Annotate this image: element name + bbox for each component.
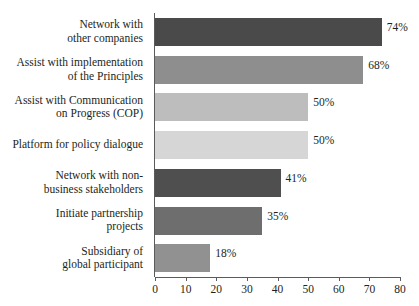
- x-axis-tick-label: 60: [333, 284, 345, 296]
- bar: [155, 18, 382, 46]
- category-label: Initiate partnershipprojects: [0, 207, 149, 234]
- category-label-line: of the Principles: [0, 70, 143, 84]
- category-label: Network with non-business stakeholders: [0, 169, 149, 196]
- bar-value-label: 41%: [286, 173, 307, 185]
- bar-row: 68%: [155, 51, 400, 89]
- x-axis-tick: [400, 277, 401, 281]
- bar-row: 41%: [155, 164, 400, 202]
- bar: [155, 131, 308, 159]
- x-axis-tick: [186, 277, 187, 281]
- bar-value-label: 50%: [313, 135, 334, 147]
- category-label-line: Subsidiary of: [0, 245, 143, 259]
- category-label-line: Initiate partnership: [0, 207, 143, 221]
- category-label-line: Assist with Communication: [0, 94, 143, 108]
- x-axis-tick-label: 20: [211, 284, 223, 296]
- x-axis-tick: [278, 277, 279, 281]
- x-axis-tick: [155, 277, 156, 281]
- category-label-line: global participant: [0, 258, 143, 272]
- category-label: Assist with implementationof the Princip…: [0, 56, 149, 83]
- category-label: Assist with Communicationon Progress (CO…: [0, 94, 149, 121]
- bar: [155, 169, 281, 197]
- x-axis-tick: [339, 277, 340, 281]
- bar-row: 50%: [155, 126, 400, 164]
- bar-value-label: 74%: [387, 22, 408, 34]
- x-axis-tick-label: 30: [241, 284, 253, 296]
- bar: [155, 244, 210, 272]
- bar: [155, 207, 262, 235]
- x-axis-tick: [308, 277, 309, 281]
- x-axis-tick: [216, 277, 217, 281]
- category-label-line: Network with: [0, 18, 143, 32]
- x-axis-tick: [247, 277, 248, 281]
- category-label-line: Platform for policy dialogue: [0, 138, 143, 152]
- x-axis-tick-label: 80: [394, 284, 406, 296]
- x-axis-tick-label: 50: [302, 284, 314, 296]
- bar-row: 74%: [155, 13, 400, 51]
- category-label-line: Assist with implementation: [0, 56, 143, 70]
- plot-area: 74%68%50%50%41%35%18%: [155, 13, 400, 277]
- category-label-line: Network with non-: [0, 169, 143, 183]
- category-axis-labels: Network withother companiesAssist with i…: [0, 13, 149, 277]
- x-axis-tick-label: 70: [364, 284, 376, 296]
- category-label: Subsidiary ofglobal participant: [0, 245, 149, 272]
- bar: [155, 93, 308, 121]
- bar-chart: Network withother companiesAssist with i…: [0, 0, 419, 306]
- category-label: Platform for policy dialogue: [0, 138, 149, 152]
- category-label: Network withother companies: [0, 18, 149, 45]
- bar-value-label: 18%: [215, 248, 236, 260]
- x-axis-tick-label: 10: [180, 284, 192, 296]
- x-axis-tick-label: 40: [272, 284, 284, 296]
- bar-value-label: 35%: [267, 211, 288, 223]
- bar-value-label: 68%: [368, 60, 389, 72]
- x-axis-tick-label: 0: [152, 284, 158, 296]
- bar-row: 50%: [155, 88, 400, 126]
- bar-row: 18%: [155, 239, 400, 277]
- bar-row: 35%: [155, 202, 400, 240]
- category-label-line: other companies: [0, 32, 143, 46]
- category-label-line: on Progress (COP): [0, 107, 143, 121]
- bar: [155, 56, 363, 84]
- x-axis-tick: [369, 277, 370, 281]
- category-label-line: projects: [0, 220, 143, 234]
- category-label-line: business stakeholders: [0, 183, 143, 197]
- bar-value-label: 50%: [313, 97, 334, 109]
